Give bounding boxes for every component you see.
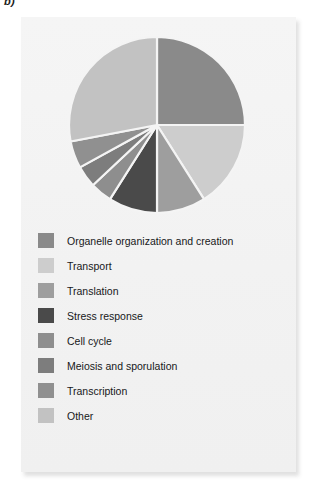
legend-color-swatch [38,308,54,323]
figure-panel: Organelle organization and creationTrans… [21,17,296,472]
legend-item-label: Translation [67,285,119,297]
legend-item-label: Other [67,410,93,422]
legend-color-swatch [38,383,54,398]
legend-item-label: Transport [67,260,112,272]
figure-panel-label: b) [4,0,15,7]
legend-item: Meiosis and sporulation [38,353,283,378]
legend-item: Stress response [38,303,283,328]
legend-item: Transcription [38,378,283,403]
legend-item-label: Organelle organization and creation [67,235,233,247]
legend-color-swatch [38,358,54,373]
legend-item: Cell cycle [38,328,283,353]
legend-color-swatch [38,283,54,298]
legend-item-label: Meiosis and sporulation [67,360,177,372]
pie-slice [157,37,245,125]
legend-color-swatch [38,408,54,423]
legend-item-label: Stress response [67,310,143,322]
legend-item: Transport [38,253,283,278]
legend-color-swatch [38,233,54,248]
pie-chart-svg [68,36,246,214]
legend-item: Other [38,403,283,428]
legend-item: Translation [38,278,283,303]
pie-chart [68,36,246,214]
legend-color-swatch [38,258,54,273]
legend-color-swatch [38,333,54,348]
pie-slice [69,37,157,141]
legend-item-label: Transcription [67,385,127,397]
panel-background: Organelle organization and creationTrans… [21,17,296,472]
legend-item-label: Cell cycle [67,335,112,347]
legend-item: Organelle organization and creation [38,228,283,253]
chart-legend: Organelle organization and creationTrans… [38,228,283,428]
